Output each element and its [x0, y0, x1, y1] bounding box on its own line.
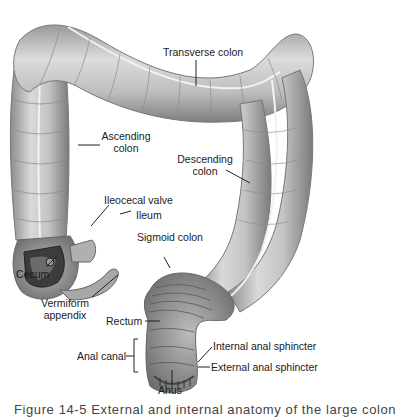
label-vermiform-appendix-line1: Vermiform — [38, 297, 92, 309]
label-descending-colon-line1: Descending — [174, 153, 236, 165]
label-vermiform-appendix-line2: appendix — [38, 309, 92, 321]
label-descending-colon: Descending colon — [174, 153, 236, 177]
label-anal-canal: Anal canal — [77, 350, 126, 362]
figure-caption-partial: Figure 14-5 External and internal anatom… — [14, 402, 396, 417]
label-transverse-colon: Transverse colon — [163, 46, 243, 58]
label-ascending-colon: Ascending colon — [100, 130, 152, 154]
label-ascending-colon-line2: colon — [100, 142, 152, 154]
label-external-anal-sphincter: External anal sphincter — [211, 361, 318, 373]
label-ascending-colon-line1: Ascending — [100, 130, 152, 142]
label-vermiform-appendix: Vermiform appendix — [38, 297, 92, 321]
sigmoid-rectum-shape — [144, 273, 234, 393]
label-descending-colon-line2: colon — [174, 165, 236, 177]
ascending-colon-shape — [10, 70, 69, 240]
label-ileum: Ileum — [136, 209, 162, 221]
label-sigmoid-colon: Sigmoid colon — [137, 231, 203, 243]
label-internal-anal-sphincter: Internal anal sphincter — [213, 340, 316, 352]
label-rectum: Rectum — [106, 315, 142, 327]
label-anus: Anus — [158, 384, 182, 396]
label-cecum: Cecum — [16, 268, 49, 280]
label-ileocecal-valve: Ileocecal valve — [104, 194, 173, 206]
